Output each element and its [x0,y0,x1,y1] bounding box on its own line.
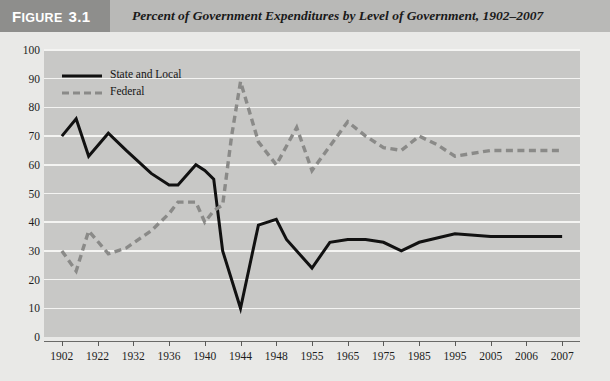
x-tick-1985 [419,341,420,346]
x-tick-1955 [312,341,313,346]
x-tick-label-1985: 1985 [408,350,431,362]
plot-wrapper: State and Local Federal [44,50,580,341]
x-tick-1965 [348,341,349,346]
y-tick-label-50: 50 [6,188,40,200]
x-tick-label-1948: 1948 [265,350,288,362]
x-tick-2005 [491,341,492,346]
x-tick-label-2006: 2006 [515,350,538,362]
chart-legend: State and Local Federal [62,66,182,100]
y-tick-label-90: 90 [6,73,40,85]
x-tick-1922 [98,341,99,346]
x-tick-1936 [169,341,170,346]
x-tick-label-1965: 1965 [336,350,359,362]
legend-item-state-and-local: State and Local [62,66,182,81]
figure-number: 3.1 [69,8,91,25]
figure-label: Figure [12,8,63,25]
x-tick-label-1902: 1902 [50,350,73,362]
y-tick-label-0: 0 [6,331,40,343]
legend-item-federal: Federal [62,83,182,98]
x-tick-label-2005: 2005 [479,350,502,362]
y-axis: 0102030405060708090100 [0,50,40,337]
y-tick-label-20: 20 [6,274,40,286]
x-tick-label-1995: 1995 [443,350,466,362]
x-tick-1940 [205,341,206,346]
x-tick-label-1944: 1944 [229,350,252,362]
figure-container: Figure 3.1 Percent of Government Expendi… [0,0,610,381]
y-tick-label-40: 40 [6,216,40,228]
series-line-state-and-local [62,119,562,308]
x-tick-2006 [526,341,527,346]
x-tick-1944 [241,341,242,346]
x-tick-label-1936: 1936 [158,350,181,362]
y-tick-label-30: 30 [6,245,40,257]
figure-badge: Figure 3.1 [0,0,110,32]
x-tick-label-1922: 1922 [86,350,109,362]
x-tick-2007 [562,341,563,346]
x-tick-label-1975: 1975 [372,350,395,362]
x-tick-label-1940: 1940 [193,350,216,362]
x-tick-1948 [276,341,277,346]
figure-header: Figure 3.1 Percent of Government Expendi… [0,0,610,32]
legend-swatch-solid [62,68,102,80]
y-tick-label-100: 100 [6,44,40,56]
figure-title: Percent of Government Expenditures by Le… [132,8,543,24]
x-tick-label-2007: 2007 [551,350,574,362]
x-tick-1932 [133,341,134,346]
x-tick-1975 [383,341,384,346]
y-tick-label-70: 70 [6,130,40,142]
chart-body: 0102030405060708090100 State and Local [0,32,610,381]
x-tick-1995 [455,341,456,346]
y-tick-label-60: 60 [6,159,40,171]
x-tick-label-1955: 1955 [301,350,324,362]
series-line-federal [62,82,562,271]
y-tick-label-10: 10 [6,302,40,314]
legend-swatch-dashed [62,85,102,97]
legend-label-state-and-local: State and Local [110,68,182,80]
x-tick-label-1932: 1932 [122,350,145,362]
legend-label-federal: Federal [110,85,144,97]
x-tick-1902 [62,341,63,346]
y-tick-label-80: 80 [6,101,40,113]
